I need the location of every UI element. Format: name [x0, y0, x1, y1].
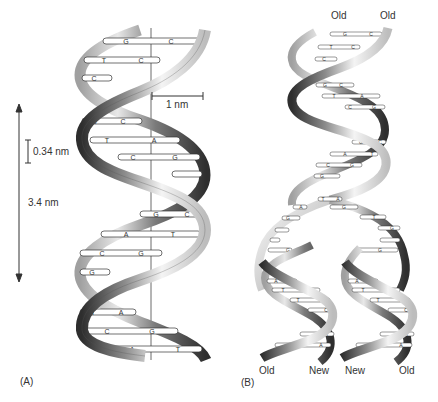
- dna-figure: G C T C C G C T A C G G C A T C G G T A …: [0, 0, 438, 402]
- svg-text:T: T: [281, 287, 284, 293]
- svg-text:T: T: [361, 287, 364, 293]
- svg-text:T: T: [329, 44, 332, 50]
- svg-text:G: G: [123, 38, 128, 45]
- bottom-strand-label-old-right: Old: [399, 365, 415, 376]
- svg-text:G: G: [138, 250, 143, 257]
- panel-b-label: (B): [241, 377, 254, 388]
- svg-text:G: G: [172, 154, 177, 161]
- svg-text:G: G: [286, 215, 290, 221]
- svg-text:A: A: [124, 231, 129, 238]
- svg-text:C: C: [91, 75, 96, 82]
- svg-text:C: C: [351, 44, 355, 50]
- radius-label: 1 nm: [166, 99, 188, 110]
- svg-text:G: G: [378, 247, 382, 253]
- svg-text:T: T: [105, 137, 110, 144]
- svg-text:G: G: [372, 104, 376, 110]
- svg-text:C: C: [369, 31, 373, 37]
- svg-text:A: A: [119, 309, 124, 316]
- arrow-up-icon: [16, 104, 22, 112]
- panel-a-helix: G C T C C G C T A C G G C A T C G G T A …: [80, 28, 206, 360]
- arrow-down-icon: [16, 274, 22, 282]
- svg-text:G: G: [390, 225, 394, 231]
- base-pair-rise-label: 0.34 nm: [33, 146, 69, 157]
- svg-text:C: C: [184, 211, 189, 218]
- svg-text:C: C: [99, 250, 104, 257]
- svg-text:C: C: [138, 57, 143, 64]
- bottom-strand-label-new-left: New: [309, 365, 329, 376]
- svg-text:C: C: [339, 82, 343, 88]
- top-strand-label-right: Old: [380, 10, 396, 21]
- svg-text:T: T: [370, 151, 373, 157]
- svg-text:G: G: [350, 162, 354, 168]
- svg-text:C: C: [322, 56, 326, 62]
- svg-text:C: C: [348, 104, 352, 110]
- svg-text:C: C: [130, 154, 135, 161]
- svg-text:G: G: [323, 82, 327, 88]
- svg-text:G: G: [153, 211, 158, 218]
- svg-text:G: G: [320, 173, 324, 179]
- svg-text:T: T: [176, 346, 181, 353]
- svg-text:T: T: [372, 214, 375, 220]
- svg-text:G: G: [342, 204, 346, 210]
- svg-text:T: T: [332, 93, 335, 99]
- daughter-helix-left: A T T A T A C A T A: [262, 245, 334, 362]
- helix-pitch-label: 3.4 nm: [28, 197, 59, 208]
- svg-text:T: T: [376, 297, 379, 303]
- parent-strand-front: [292, 28, 388, 200]
- panel-b-helix: G C T C C G C T A C G G C A T C G G: [258, 28, 414, 362]
- svg-text:C: C: [326, 162, 330, 168]
- bottom-strand-label-new-right: New: [345, 365, 365, 376]
- svg-text:T: T: [321, 196, 324, 202]
- svg-text:G: G: [343, 31, 347, 37]
- svg-text:C: C: [168, 38, 173, 45]
- svg-text:T: T: [102, 57, 107, 64]
- bottom-strand-label-old-left: Old: [259, 365, 275, 376]
- svg-text:T: T: [171, 231, 176, 238]
- svg-text:C: C: [104, 328, 109, 335]
- svg-text:G: G: [89, 269, 94, 276]
- svg-text:A: A: [152, 137, 157, 144]
- svg-text:T: T: [296, 297, 299, 303]
- svg-text:G: G: [149, 328, 154, 335]
- top-strand-label-left: Old: [331, 10, 347, 21]
- svg-text:C: C: [120, 118, 125, 125]
- panel-a-label: (A): [20, 376, 33, 387]
